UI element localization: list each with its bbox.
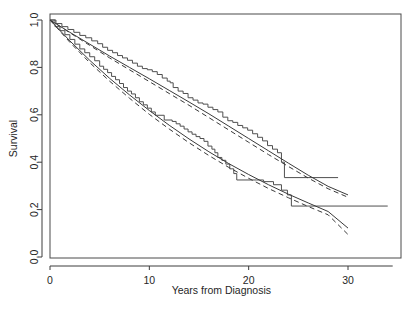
y-axis-title: Survival: [7, 120, 19, 157]
x-tick-label: 0: [47, 274, 53, 286]
series-line-1: [50, 20, 348, 195]
series-line-4: [50, 20, 348, 228]
series-line-0: [50, 20, 338, 178]
data-series-group: [50, 20, 388, 234]
x-tick-label: 30: [342, 274, 354, 286]
plot-border: [50, 14, 401, 258]
plot-frame: [50, 14, 401, 258]
series-line-3: [50, 20, 388, 206]
y-tick-label: 0.6: [28, 107, 40, 122]
x-axis-title: Years from Diagnosis: [172, 284, 271, 296]
y-tick-label: 0.4: [28, 155, 40, 170]
survival-plot-figure: 0.00.20.40.60.81.0 0102030 Years from Di…: [0, 0, 416, 313]
series-line-5: [50, 20, 348, 234]
y-tick-label: 0.8: [28, 60, 40, 75]
x-axis: 0102030: [47, 266, 393, 286]
y-tick-label: 0.2: [28, 202, 40, 217]
x-tick-label: 10: [143, 274, 155, 286]
y-tick-label: 0.0: [28, 250, 40, 265]
y-tick-label: 1.0: [28, 13, 40, 28]
plot-canvas: 0.00.20.40.60.81.0 0102030 Years from Di…: [0, 0, 416, 313]
y-axis: 0.00.20.40.60.81.0: [28, 13, 42, 265]
